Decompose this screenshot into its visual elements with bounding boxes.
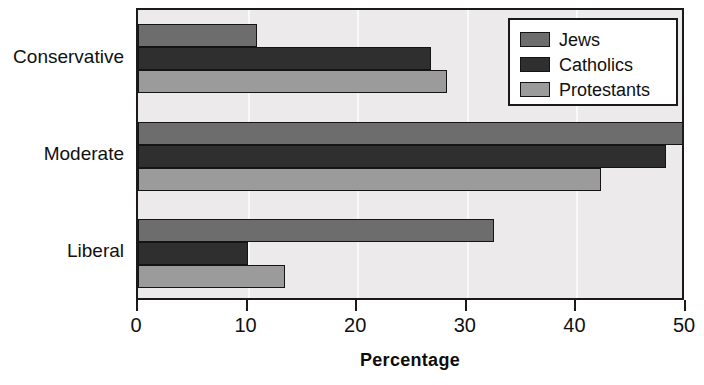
x-axis-tick-label: 10 [234, 314, 256, 337]
x-axis-tick-label: 40 [563, 314, 585, 337]
bar-moderate-protestants [138, 168, 601, 191]
bar-liberal-protestants [138, 265, 285, 288]
legend-label: Catholics [559, 56, 633, 74]
x-axis-tick [574, 300, 576, 311]
bar-chart: ConservativeModerateLiberal 01020304050 … [0, 0, 704, 385]
legend-item-protestants: Protestants [520, 77, 676, 102]
x-axis-tick-label: 0 [130, 314, 141, 337]
bar-moderate-catholics [138, 145, 666, 168]
y-axis-label-liberal: Liberal [67, 240, 124, 262]
bar-moderate-jews [138, 122, 684, 145]
x-axis-tick [465, 300, 467, 311]
x-axis-title: Percentage [136, 350, 684, 371]
legend-label: Protestants [559, 81, 650, 99]
bar-conservative-jews [138, 24, 257, 47]
x-axis-tick-label: 50 [673, 314, 695, 337]
bar-liberal-catholics [138, 242, 248, 265]
x-axis: 01020304050 [136, 300, 684, 301]
x-axis-tick-label: 30 [454, 314, 476, 337]
legend-swatch-jews [520, 32, 550, 47]
x-axis-tick [246, 300, 248, 311]
y-axis-label-moderate: Moderate [44, 143, 124, 165]
bar-conservative-catholics [138, 47, 431, 70]
x-axis-tick [136, 300, 138, 311]
legend-item-jews: Jews [520, 27, 676, 52]
legend-item-catholics: Catholics [520, 52, 676, 77]
y-axis-label-conservative: Conservative [13, 46, 124, 68]
x-axis-tick-label: 20 [344, 314, 366, 337]
chart-legend: JewsCatholicsProtestants [508, 18, 678, 106]
x-axis-tick [355, 300, 357, 311]
bar-conservative-protestants [138, 70, 447, 93]
legend-swatch-catholics [520, 57, 550, 72]
legend-swatch-protestants [520, 82, 550, 97]
legend-label: Jews [559, 31, 600, 49]
y-axis-labels: ConservativeModerateLiberal [0, 0, 130, 300]
bar-liberal-jews [138, 219, 494, 242]
x-axis-tick [684, 300, 686, 311]
